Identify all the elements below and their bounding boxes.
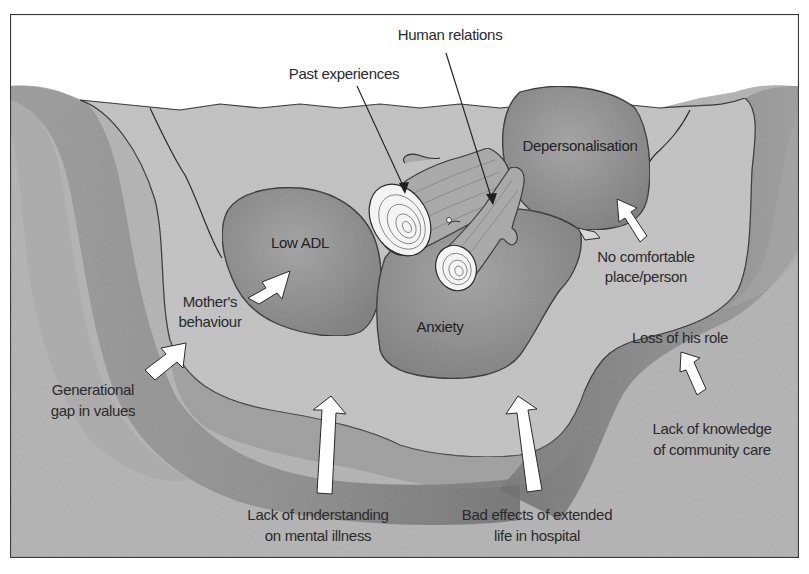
- svg-text:Lack of knowledge: Lack of knowledge: [652, 420, 771, 437]
- svg-text:Bad effects of extended: Bad effects of extended: [462, 506, 612, 523]
- log-label-human-relations: Human relations: [398, 26, 503, 43]
- svg-text:Human relations: Human relations: [398, 26, 503, 43]
- svg-text:place/person: place/person: [605, 268, 687, 285]
- svg-text:Mother's: Mother's: [183, 293, 238, 310]
- diagram-frame: Human relations Past experiences Deperso…: [10, 14, 799, 558]
- well-diagram: Human relations Past experiences Deperso…: [10, 14, 799, 558]
- svg-text:behaviour: behaviour: [178, 313, 241, 330]
- svg-text:Loss of his role: Loss of his role: [632, 329, 728, 346]
- boulder-label-low-adl: Low ADL: [271, 234, 329, 251]
- boulder-label-depersonalisation: Depersonalisation: [523, 137, 638, 154]
- svg-text:Past experiences: Past experiences: [289, 65, 399, 82]
- log-label-past-experiences: Past experiences: [289, 65, 399, 82]
- svg-text:Lack of understanding: Lack of understanding: [247, 506, 388, 523]
- svg-text:on mental illness: on mental illness: [265, 527, 372, 544]
- svg-text:life in hospital: life in hospital: [494, 527, 580, 544]
- svg-text:of community care: of community care: [653, 441, 770, 458]
- svg-text:gap in values: gap in values: [51, 402, 136, 419]
- svg-text:No comfortable: No comfortable: [597, 248, 695, 265]
- factor-loss-of-role: Loss of his role: [632, 329, 728, 346]
- svg-text:Generational: Generational: [52, 381, 134, 398]
- boulder-label-anxiety: Anxiety: [416, 318, 464, 335]
